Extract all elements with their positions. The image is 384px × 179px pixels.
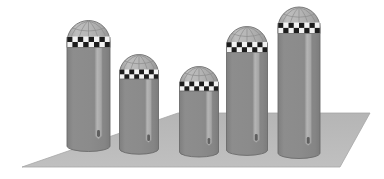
pillar-2-body [120, 74, 159, 154]
pillar-3-slot-shadow [208, 138, 211, 144]
pillar-1-checker-band [66, 37, 111, 49]
pillar-1 [66, 21, 111, 152]
pillar-1-highlight [95, 38, 102, 139]
pillar-3 [179, 67, 219, 158]
pillar-5-checker-band [277, 23, 321, 35]
pillar-5 [277, 7, 321, 159]
pillars-scene-svg [0, 0, 384, 179]
pillar-5-slot-shadow [307, 137, 310, 144]
pillar-4-checker-band [226, 42, 268, 53]
pillar-2-slot-shadow [147, 135, 150, 142]
pillar-3-body [180, 86, 219, 157]
pillar-4-slot-shadow [255, 134, 258, 141]
pillar-3-highlight [206, 83, 212, 146]
pillar-2-highlight [146, 71, 152, 143]
illustration-canvas [0, 0, 384, 179]
pillar-3-checker-band [179, 82, 219, 92]
pillar-5-highlight [305, 25, 312, 146]
pillar-1-body [67, 42, 110, 152]
pillar-4-body [227, 47, 268, 155]
pillar-2-checker-band [119, 70, 159, 80]
pillar-1-slot-shadow [97, 130, 100, 137]
pillar-5-body [278, 28, 320, 159]
pillar-4 [226, 27, 268, 156]
pillar-2 [119, 55, 159, 155]
pillar-4-highlight [253, 44, 260, 143]
